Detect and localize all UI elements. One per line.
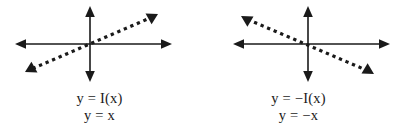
panel-identity-function: y = I(x) y = x (0, 0, 199, 139)
negative-identity-line-arrow-upper-left-icon (241, 16, 254, 27)
y-axis-arrow-down-icon (303, 71, 313, 82)
x-axis-arrow-right-icon (161, 39, 172, 49)
caption-line-equation: y = x (0, 107, 199, 124)
x-axis-arrow-right-icon (379, 39, 390, 49)
graph-negative-identity-function (199, 0, 398, 92)
identity-line-arrow-upper-right-icon (146, 14, 159, 25)
identity-line-dotted (34, 18, 150, 68)
identity-line-arrow-lower-left-icon (25, 62, 38, 73)
caption-line-equation: y = −x (199, 107, 398, 124)
y-axis-arrow-up-icon (85, 6, 95, 17)
caption-identity-function: y = I(x) y = x (0, 90, 199, 124)
x-axis-arrow-left-icon (15, 39, 26, 49)
y-axis-arrow-down-icon (85, 71, 95, 82)
x-axis-arrow-left-icon (233, 39, 244, 49)
caption-line-function-notation: y = I(x) (0, 90, 199, 107)
negative-identity-line-arrow-lower-right-icon (362, 63, 375, 74)
caption-line-function-notation: y = −I(x) (199, 90, 398, 107)
panel-negative-identity-function: y = −I(x) y = −x (199, 0, 398, 139)
y-axis-arrow-up-icon (303, 6, 313, 17)
identity-function-figure: y = I(x) y = x y = −I(x) y = −x (0, 0, 398, 139)
caption-negative-identity-function: y = −I(x) y = −x (199, 90, 398, 124)
graph-identity-function (0, 0, 199, 92)
